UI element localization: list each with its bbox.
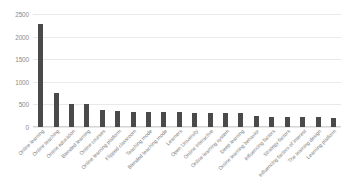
bar bbox=[223, 113, 228, 127]
bar bbox=[192, 113, 197, 127]
bar-slot bbox=[33, 14, 48, 127]
bar-slot bbox=[141, 14, 156, 127]
bar bbox=[316, 117, 321, 127]
bar bbox=[131, 112, 136, 127]
bar bbox=[54, 93, 59, 127]
bar bbox=[146, 112, 151, 127]
bar-slot bbox=[110, 14, 125, 127]
bar-chart: 05001000150020002500 Online learningOnli… bbox=[0, 0, 353, 187]
bar bbox=[100, 110, 105, 127]
bar bbox=[300, 117, 305, 127]
bar bbox=[177, 112, 182, 127]
y-axis-tick-label: 2000 bbox=[0, 33, 29, 40]
bar-slot bbox=[326, 14, 341, 127]
bar bbox=[285, 117, 290, 127]
y-axis-tick-label: 0 bbox=[0, 124, 29, 131]
bar-slot bbox=[249, 14, 264, 127]
bar-slot bbox=[79, 14, 94, 127]
bar bbox=[38, 24, 43, 127]
x-axis-category-labels: Online learningOnline teachingOnline edu… bbox=[33, 128, 341, 187]
plot-area bbox=[33, 14, 341, 127]
y-axis-tick-label: 1500 bbox=[0, 56, 29, 63]
bar bbox=[254, 116, 259, 127]
y-axis-tick-label: 500 bbox=[0, 101, 29, 108]
bar-slot bbox=[156, 14, 171, 127]
bar bbox=[238, 113, 243, 127]
bar bbox=[208, 113, 213, 127]
y-axis-tick-label: 1000 bbox=[0, 78, 29, 85]
y-axis-tick-label: 2500 bbox=[0, 11, 29, 18]
bar-slot bbox=[187, 14, 202, 127]
bar-slot bbox=[64, 14, 79, 127]
bar bbox=[115, 111, 120, 127]
bar bbox=[69, 104, 74, 128]
bar-series bbox=[33, 14, 341, 127]
bar-slot bbox=[264, 14, 279, 127]
bar-slot bbox=[95, 14, 110, 127]
bar bbox=[161, 112, 166, 127]
bar-slot bbox=[125, 14, 140, 127]
bar bbox=[331, 118, 336, 127]
bar-slot bbox=[48, 14, 63, 127]
bar bbox=[269, 117, 274, 127]
bar bbox=[84, 104, 89, 127]
bar-slot bbox=[295, 14, 310, 127]
bar-slot bbox=[233, 14, 248, 127]
bar-slot bbox=[172, 14, 187, 127]
bar-slot bbox=[202, 14, 217, 127]
bar-slot bbox=[280, 14, 295, 127]
bar-slot bbox=[310, 14, 325, 127]
bar-slot bbox=[218, 14, 233, 127]
